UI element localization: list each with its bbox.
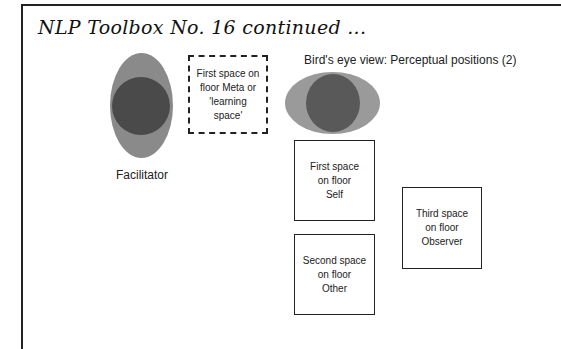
position-box-self: First space on floor Self [294, 140, 375, 221]
position-box-observer: Third space on floor Observer [402, 187, 482, 269]
position-box-self-text: First space on floor Self [310, 160, 359, 202]
position-box-other-text: Second space on floor Other [303, 254, 366, 296]
meta-learning-space-box: First space on floor Meta or 'learning s… [188, 55, 268, 134]
page-title: NLP Toolbox No. 16 continued ... [38, 16, 366, 38]
position-box-observer-text: Third space on floor Observer [416, 207, 468, 249]
birds-eye-heading: Bird's eye view: Perceptual positions (2… [304, 53, 516, 67]
birds-eye-inner-circle [306, 74, 360, 132]
position-box-other: Second space on floor Other [294, 234, 375, 315]
meta-learning-space-text: First space on floor Meta or 'learning s… [194, 67, 262, 123]
facilitator-inner-circle [112, 77, 170, 135]
facilitator-label: Facilitator [110, 168, 174, 182]
